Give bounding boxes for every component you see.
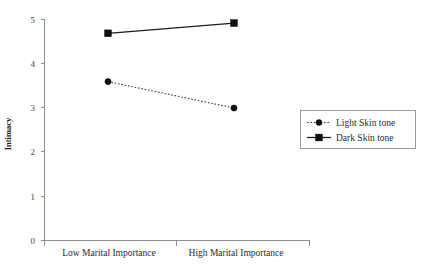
series-light-skin-tone	[105, 79, 237, 112]
series-light-marker-low	[105, 79, 111, 85]
x-category-label-high: High Marital Importance	[189, 248, 284, 258]
y-axis-ticks	[41, 20, 45, 241]
y-tick-label-4: 4	[31, 59, 36, 69]
legend-label-dark-skin-tone: Dark Skin tone	[336, 133, 394, 143]
legend: Light Skin tone Dark Skin tone	[301, 111, 416, 149]
y-tick-label-5: 5	[31, 15, 36, 25]
x-category-label-low: Low Marital Importance	[62, 248, 155, 258]
axes-group	[45, 19, 311, 241]
x-axis-category-labels: Low Marital Importance High Marital Impo…	[62, 248, 283, 258]
y-tick-label-2: 2	[31, 147, 36, 157]
y-tick-label-0: 0	[31, 236, 36, 246]
series-dark-marker-low	[105, 30, 112, 37]
series-dark-line	[108, 23, 234, 33]
legend-dark-marker-sample	[316, 134, 323, 141]
x-axis-ticks	[45, 241, 310, 246]
legend-label-light-skin-tone: Light Skin tone	[336, 118, 395, 128]
series-dark-marker-high	[231, 20, 238, 27]
legend-light-marker-sample	[316, 120, 322, 126]
series-light-marker-high	[231, 105, 237, 111]
chart-canvas: 5 4 3 2 1 0 Intimacy Low Marital Importa…	[0, 0, 426, 268]
intimacy-line-chart: 5 4 3 2 1 0 Intimacy Low Marital Importa…	[0, 0, 426, 268]
y-axis-tick-labels: 5 4 3 2 1 0	[31, 15, 36, 246]
series-dark-skin-tone	[105, 20, 238, 37]
y-axis-title: Intimacy	[3, 117, 13, 150]
y-tick-label-3: 3	[31, 103, 36, 113]
y-tick-label-1: 1	[31, 192, 36, 202]
series-light-line	[108, 82, 234, 108]
